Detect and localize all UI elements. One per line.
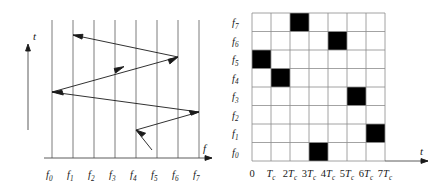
hop-matrix-cell-filled [271,69,290,88]
tick-label-f7: f7 [193,169,200,183]
right-time-axis [385,159,428,164]
y-tick-label-f5: f5 [232,54,239,68]
x-tick-label-0: 0 [249,168,254,179]
hop-matrix-cell-filled [309,143,328,162]
hop-matrix-cell-filled [290,13,309,32]
left-frequency-tick-labels: f0 f1 f2 f3 f4 f5 f6 f7 [46,169,200,183]
x-tick-label-1: Tc [266,168,276,182]
tick-label-f1: f1 [67,169,74,183]
y-tick-label-f6: f6 [232,36,239,50]
frequency-gridlines [52,20,199,158]
tick-label-f0: f0 [46,169,53,183]
hop-matrix-y-tick-labels: f7f6f5f4f3f2f1f0 [232,17,239,160]
y-tick-label-f3: f3 [232,91,239,105]
right-t-axis-label: t [420,145,424,157]
tick-label-f2: f2 [88,169,95,183]
x-tick-label-6: 6Tc [359,168,374,182]
x-tick-label-3: 3Tc [302,168,317,182]
y-tick-label-f2: f2 [232,110,239,124]
x-tick-label-7: 7Tc [378,168,393,182]
hop-matrix-x-tick-labels: 0Tc2Tc3Tc4Tc5Tc6Tc7Tc [249,168,393,182]
y-tick-label-f4: f4 [232,73,239,87]
left-f-axis-label: f [203,142,208,154]
tick-label-f6: f6 [172,169,179,183]
tick-label-f3: f3 [109,169,116,183]
x-tick-label-4: 4Tc [321,168,336,182]
y-tick-label-f7: f7 [232,17,239,31]
hop-matrix-cell-filled [328,32,347,51]
x-tick-label-5: 5Tc [340,168,355,182]
x-tick-label-2: 2Tc [283,168,298,182]
hop-matrix-cell-filled [366,124,385,143]
time-axis [26,44,31,130]
hop-trajectory-panel: t f f0 f1 f2 f3 f4 f5 f6 f7 [0,0,224,192]
hop-matrix-panel: t f7f6f5f4f3f2f1f0 0Tc2Tc3Tc4Tc5Tc6Tc7Tc [224,0,448,192]
hop-matrix-gridlines [252,13,385,161]
tick-label-f5: f5 [151,169,158,183]
tick-label-f4: f4 [130,169,137,183]
y-tick-label-f1: f1 [232,128,239,142]
left-t-axis-label: t [33,30,37,42]
frequency-axis [44,156,212,161]
figure-container: t f f0 f1 f2 f3 f4 f5 f6 f7 [0,0,448,192]
hop-matrix-cell-filled [347,87,366,106]
y-tick-label-f0: f0 [232,147,239,161]
hop-trajectory-svg: t f f0 f1 f2 f3 f4 f5 f6 f7 [0,0,224,192]
hop-trajectory-path [52,34,199,150]
hop-matrix-cell-filled [252,50,271,69]
hop-matrix-svg: t f7f6f5f4f3f2f1f0 0Tc2Tc3Tc4Tc5Tc6Tc7Tc [224,0,448,192]
